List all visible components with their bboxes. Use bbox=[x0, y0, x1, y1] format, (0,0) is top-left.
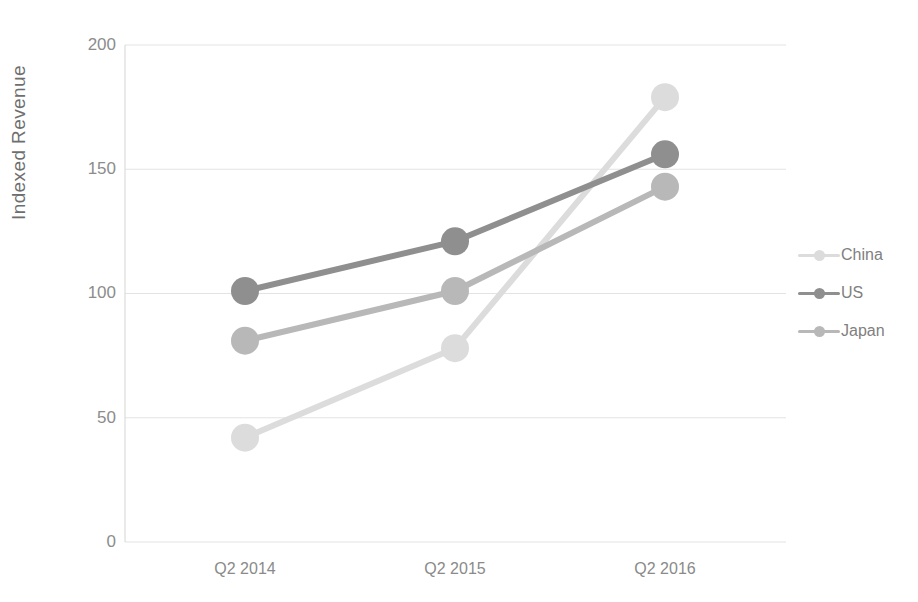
chart-legend: China US Japan bbox=[798, 236, 916, 350]
legend-marker-china bbox=[798, 248, 840, 262]
data-point bbox=[231, 277, 259, 305]
data-point bbox=[441, 277, 469, 305]
legend-label: China bbox=[840, 246, 883, 264]
data-point bbox=[441, 334, 469, 362]
data-point bbox=[651, 83, 679, 111]
x-tick-label: Q2 2016 bbox=[634, 560, 695, 578]
data-point bbox=[441, 227, 469, 255]
legend-item-japan[interactable]: Japan bbox=[798, 312, 916, 350]
data-point bbox=[231, 327, 259, 355]
series-line bbox=[245, 187, 665, 341]
data-point bbox=[651, 173, 679, 201]
x-tick-label: Q2 2014 bbox=[214, 560, 275, 578]
legend-marker-japan bbox=[798, 324, 840, 338]
data-point bbox=[231, 424, 259, 452]
plot-area bbox=[0, 0, 918, 602]
data-point bbox=[651, 140, 679, 168]
series-china bbox=[231, 83, 679, 451]
chart-container: Indexed Revenue 200 150 100 50 0 Q2 2014… bbox=[0, 0, 918, 602]
legend-item-china[interactable]: China bbox=[798, 236, 916, 274]
series-japan bbox=[231, 173, 679, 355]
series-line bbox=[245, 97, 665, 437]
legend-item-us[interactable]: US bbox=[798, 274, 916, 312]
legend-marker-us bbox=[798, 286, 840, 300]
legend-label: Japan bbox=[840, 322, 885, 340]
legend-label: US bbox=[840, 284, 863, 302]
x-tick-label: Q2 2015 bbox=[424, 560, 485, 578]
